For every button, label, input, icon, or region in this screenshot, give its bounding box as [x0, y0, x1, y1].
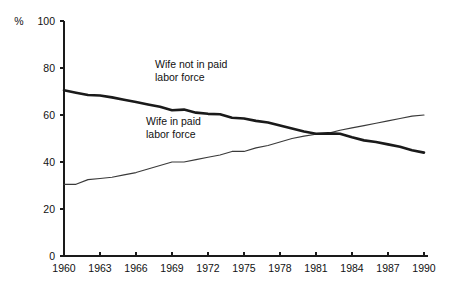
line-chart: 020406080100 196019631966196919721975197… [0, 0, 454, 292]
series-annotations: Wife not in paidlabor forceWife in paidl… [146, 58, 228, 140]
y-axis-group: 020406080100 [37, 15, 64, 262]
y-tick-label: 60 [43, 109, 55, 121]
x-tick-label: 1984 [340, 262, 364, 274]
x-tick-label: 1975 [232, 262, 256, 274]
y-axis-unit-label: % [14, 15, 23, 27]
annot-wife-not-in-paid: Wife not in paidlabor force [155, 58, 228, 83]
series-line-wife-in-paid-labor-force [64, 115, 424, 184]
x-tick-label: 1960 [52, 262, 76, 274]
x-tick-label: 1963 [88, 262, 112, 274]
x-tick-label: 1978 [268, 262, 292, 274]
annotation-line: labor force [146, 128, 196, 140]
x-tick-label: 1966 [124, 262, 148, 274]
y-tick-label: 40 [43, 156, 55, 168]
y-tick-label: 20 [43, 203, 55, 215]
x-tick-label: 1981 [304, 262, 328, 274]
y-tick-label: 0 [49, 250, 55, 262]
x-tick-label: 1972 [196, 262, 220, 274]
x-tick-label: 1987 [376, 262, 400, 274]
y-tick-label: 100 [37, 15, 55, 27]
chart-container: 020406080100 196019631966196919721975197… [0, 0, 454, 292]
y-tick-labels: 020406080100 [37, 15, 55, 262]
y-tick-label: 80 [43, 62, 55, 74]
x-tick-label: 1969 [160, 262, 184, 274]
annotation-line: labor force [155, 71, 205, 83]
series-line-wife-not-in-paid-labor-force [64, 90, 424, 152]
x-tick-label: 1990 [412, 262, 436, 274]
x-axis-group: 1960196319661969197219751978198119841987… [52, 252, 436, 274]
annotation-line: Wife in paid [146, 115, 201, 127]
series-group [64, 90, 424, 184]
x-tick-labels: 1960196319661969197219751978198119841987… [52, 262, 436, 274]
annot-wife-in-paid: Wife in paidlabor force [146, 115, 201, 140]
annotation-line: Wife not in paid [155, 58, 228, 70]
